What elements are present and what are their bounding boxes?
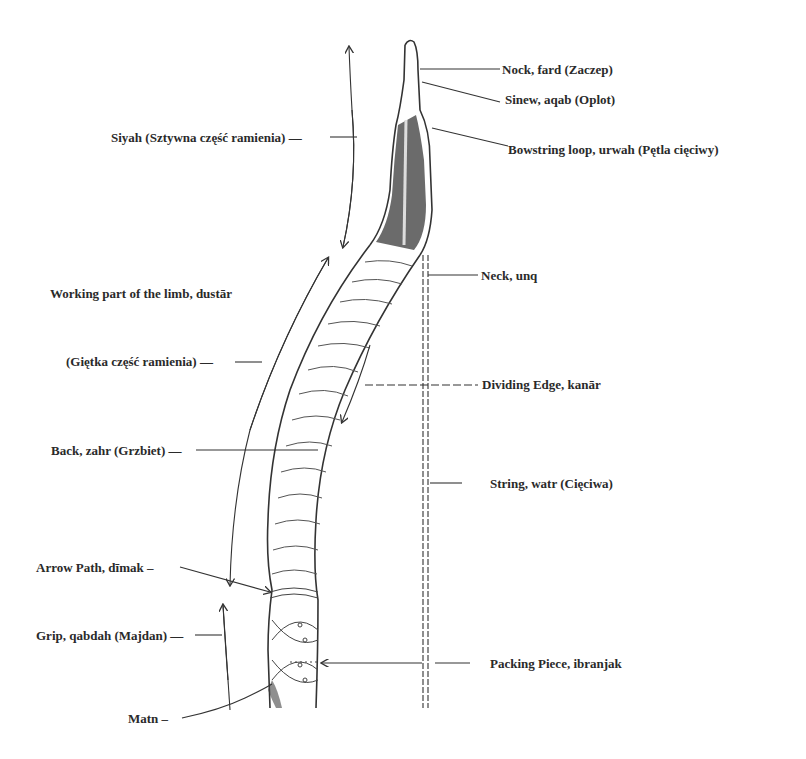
range-arrows — [223, 47, 370, 710]
grip-ornament — [270, 588, 318, 683]
label-neck: Neck, unq — [481, 269, 537, 282]
label-packing-piece: Packing Piece, ibranjak — [490, 657, 622, 670]
bow-illustration — [0, 0, 806, 759]
label-dividing-edge: Dividing Edge, kanār — [482, 378, 601, 391]
label-grip: Grip, qabdah (Majdan) — — [36, 629, 183, 642]
label-back: Back, zahr (Grzbiet) — — [51, 444, 181, 457]
label-matn: Matn – — [128, 712, 168, 725]
label-gietka: (Giętka część ramienia) — — [66, 355, 213, 368]
siyah-shading — [376, 115, 426, 250]
label-string: String, watr (Cięciwa) — [490, 477, 613, 490]
label-bowstring-loop: Bowstring loop, urwah (Pętla cięciwy) — [508, 143, 719, 156]
label-working-part: Working part of the limb, dustār — [50, 287, 232, 300]
label-arrow-path: Arrow Path, dīmak – — [36, 561, 153, 574]
limb-hatching — [272, 261, 412, 574]
label-sinew: Sinew, aqab (Oplot) — [505, 93, 615, 106]
label-nock: Nock, fard (Zaczep) — [502, 63, 613, 76]
bow-diagram: Nock, fard (Zaczep) Sinew, aqab (Oplot) … — [0, 0, 806, 759]
bowstring — [423, 255, 428, 708]
label-siyah: Siyah (Sztywna część ramienia) — — [111, 131, 302, 144]
